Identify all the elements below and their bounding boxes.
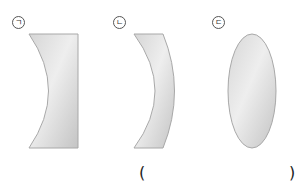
marker-digeut: ㄷ <box>212 16 225 29</box>
plano-concave-lens <box>29 34 78 148</box>
biconvex-lens <box>228 34 276 148</box>
answer-open-paren: ( <box>139 163 145 182</box>
meniscus-lens <box>134 34 175 148</box>
marker-nieun: ㄴ <box>113 16 126 29</box>
answer-close-paren: ) <box>289 163 295 182</box>
marker-giyeok: ㄱ <box>12 16 25 29</box>
lens-figure <box>0 0 301 188</box>
